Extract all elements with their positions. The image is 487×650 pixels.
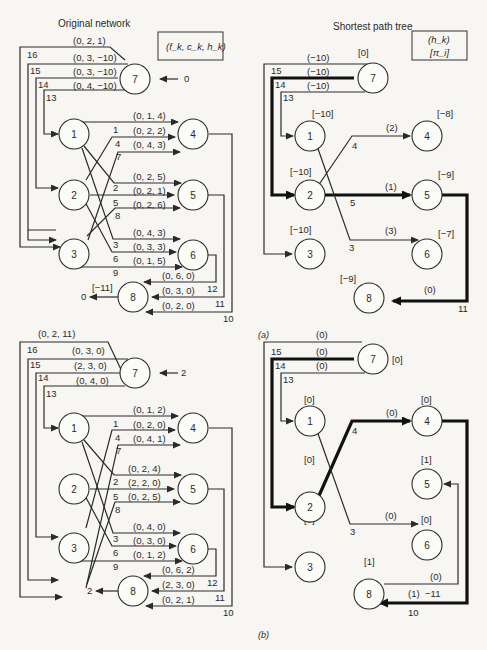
node-5: 5: [178, 180, 208, 210]
svg-text:14: 14: [38, 372, 49, 383]
svg-text:6: 6: [113, 253, 118, 264]
svg-text:7: 7: [370, 354, 376, 365]
svg-text:(0, 3, 0): (0, 3, 0): [162, 285, 195, 296]
svg-text:5: 5: [113, 197, 118, 208]
svg-text:(0, 2, 6): (0, 2, 6): [133, 199, 166, 210]
svg-text:[−11]: [−11]: [92, 282, 113, 293]
svg-text:(0, 4, 3): (0, 4, 3): [133, 139, 166, 150]
svg-text:(0, 4, 1): (0, 4, 1): [133, 433, 166, 444]
svg-text:5: 5: [424, 190, 430, 201]
svg-text:[0]: [0]: [358, 47, 369, 58]
panel-b-tree: (0) (0) (0) 151413 [0] (0) (0) (0) (1) −…: [258, 329, 467, 640]
svg-text:[0]: [0]: [421, 514, 432, 525]
svg-text:[−10]: [−10]: [290, 224, 311, 235]
svg-text:11: 11: [215, 592, 225, 603]
svg-text:[1]: [1]: [421, 454, 432, 465]
svg-text:7: 7: [132, 74, 138, 85]
svg-text:(0, 1, 5): (0, 1, 5): [133, 255, 166, 266]
svg-text:(0): (0): [386, 407, 398, 418]
svg-text:(1): (1): [408, 588, 420, 599]
svg-text:4: 4: [115, 138, 120, 149]
svg-text:[0]: [0]: [304, 454, 315, 465]
svg-text:14: 14: [275, 79, 286, 90]
svg-text:13: 13: [283, 374, 294, 385]
caption-a: (a): [258, 330, 269, 340]
svg-text:(2): (2): [386, 122, 398, 133]
svg-text:6: 6: [113, 547, 118, 558]
svg-text:3: 3: [307, 562, 313, 573]
svg-text:(0, 2, 1): (0, 2, 1): [133, 185, 166, 196]
svg-text:12: 12: [207, 577, 218, 588]
svg-text:10: 10: [408, 607, 419, 618]
svg-text:4: 4: [352, 425, 357, 436]
svg-text:5: 5: [350, 197, 355, 208]
svg-text:4: 4: [424, 416, 430, 427]
svg-text:(3): (3): [385, 225, 397, 236]
svg-text:(0, 2, 4): (0, 2, 4): [128, 463, 161, 474]
svg-text:16: 16: [27, 49, 38, 60]
node-1: 1: [59, 119, 89, 149]
svg-text:4: 4: [424, 131, 430, 142]
svg-text:(0, 1, 2): (0, 1, 2): [133, 404, 166, 415]
svg-text:10: 10: [223, 313, 234, 324]
svg-text:(0, 6, 0): (0, 6, 0): [162, 270, 195, 281]
svg-text:1: 1: [307, 131, 313, 142]
svg-text:6: 6: [424, 540, 430, 551]
svg-text:15: 15: [30, 65, 41, 76]
svg-text:8: 8: [366, 293, 372, 304]
svg-text:7: 7: [116, 151, 121, 162]
figure-canvas: Original network (f_k, c_k, h_k) (0, 2, …: [0, 0, 487, 650]
svg-text:(−10): (−10): [307, 80, 329, 91]
svg-text:15: 15: [271, 65, 282, 76]
svg-text:2: 2: [87, 585, 92, 596]
svg-text:1: 1: [113, 418, 118, 429]
node-2: 2: [59, 180, 89, 210]
svg-text:8: 8: [115, 504, 120, 515]
svg-text:2: 2: [307, 502, 313, 513]
svg-text:(0, 6, 2): (0, 6, 2): [162, 564, 195, 575]
label-arc-16: (0, 2, 1): [73, 35, 106, 46]
svg-text:(0, 2, 5): (0, 2, 5): [133, 171, 166, 182]
svg-text:13: 13: [283, 92, 294, 103]
svg-text:5: 5: [190, 190, 196, 201]
node-7: 7: [120, 64, 150, 94]
svg-text:11: 11: [458, 303, 468, 314]
svg-text:(0, 3, 3): (0, 3, 3): [133, 241, 166, 252]
title-shortest-path-tree: Shortest path tree: [333, 21, 413, 32]
supply-node-7: 0: [184, 73, 189, 84]
svg-text:(0): (0): [316, 360, 328, 371]
svg-text:2: 2: [71, 190, 77, 201]
svg-text:7: 7: [370, 73, 376, 84]
svg-text:2: 2: [113, 182, 118, 193]
svg-text:(0, 4, 0): (0, 4, 0): [76, 375, 109, 386]
svg-text:(0, 2, 2): (0, 2, 2): [133, 125, 166, 136]
svg-text:1: 1: [71, 423, 77, 434]
svg-text:7: 7: [132, 368, 138, 379]
label-arc-14: (0, 3, −10): [73, 66, 117, 77]
svg-text:6: 6: [190, 250, 196, 261]
svg-text:3: 3: [71, 249, 77, 260]
svg-text:(0, 3, 0): (0, 3, 0): [133, 535, 166, 546]
svg-text:[−10]: [−10]: [312, 108, 333, 119]
svg-text:[−8]: [−8]: [437, 108, 453, 119]
svg-text:[0]: [0]: [304, 394, 315, 405]
svg-text:8: 8: [130, 292, 136, 303]
svg-text:15: 15: [271, 346, 282, 357]
svg-text:(h_k): (h_k): [428, 34, 450, 45]
node-8: 8: [118, 282, 148, 312]
svg-text:2: 2: [307, 190, 313, 201]
svg-text:(−10): (−10): [307, 66, 329, 77]
panel-a-shortest-path-tree: Shortest path tree (h_k) [π_i] (−10) (−1…: [258, 21, 468, 340]
svg-text:(0, 2, 0): (0, 2, 0): [162, 300, 195, 311]
svg-text:[0]: [0]: [392, 354, 403, 365]
svg-text:6: 6: [424, 249, 430, 260]
svg-text:3: 3: [113, 239, 118, 250]
caption-b: (b): [258, 630, 269, 640]
svg-text:2: 2: [181, 367, 186, 378]
svg-text:(1): (1): [385, 181, 397, 192]
svg-text:8: 8: [130, 586, 136, 597]
svg-text:(0, 2, 5): (0, 2, 5): [128, 491, 161, 502]
svg-text:(0): (0): [424, 284, 436, 295]
svg-text:6: 6: [190, 544, 196, 555]
svg-text:(0, 4, 3): (0, 4, 3): [133, 227, 166, 238]
